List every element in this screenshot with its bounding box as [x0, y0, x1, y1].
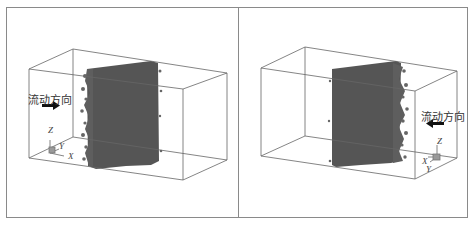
- axis-label-z: Z: [437, 137, 442, 146]
- axis-label-y: Y: [426, 165, 431, 174]
- axis-label-x: X: [68, 152, 74, 161]
- flow-direction-label: 流动方向: [421, 108, 465, 124]
- panel-left: 流动方向 Z Y X: [7, 8, 238, 217]
- axis-label-z: Z: [48, 126, 53, 135]
- panel-right: 流动方向 Z X Y: [239, 8, 469, 217]
- particle-cluster-right: [328, 61, 409, 167]
- axis-triad-right: [428, 145, 440, 162]
- domain-box-left: [7, 8, 238, 219]
- axis-label-y: Y: [59, 142, 64, 151]
- figure-frame: 流动方向 Z Y X: [6, 7, 468, 218]
- flow-direction-label: 流动方向: [28, 91, 72, 107]
